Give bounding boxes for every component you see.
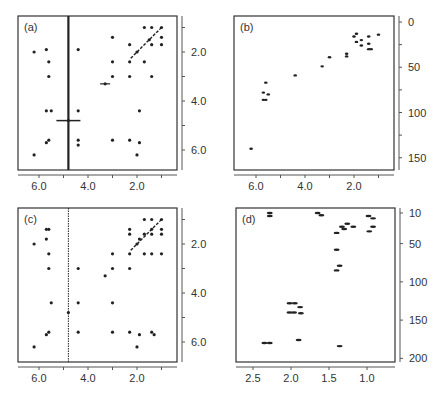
- cross-peak: [150, 252, 153, 255]
- cross-peak: [334, 269, 340, 271]
- x-tick-label: 6.0: [31, 372, 46, 384]
- x-tick-label: 4.0: [80, 180, 95, 192]
- cross-peak: [111, 252, 114, 255]
- cross-peak: [47, 267, 50, 270]
- cross-peak: [370, 217, 376, 219]
- cross-peak: [135, 153, 138, 156]
- y-tick-label: 50: [408, 61, 420, 73]
- cross-peak: [360, 44, 364, 46]
- cross-peak: [150, 331, 153, 334]
- cross-peak: [111, 301, 114, 304]
- cross-peak: [77, 109, 80, 112]
- cross-peak: [315, 212, 321, 214]
- y-tick-label: 2.0: [191, 46, 206, 58]
- cross-peak: [352, 35, 356, 37]
- cross-peak: [111, 331, 114, 334]
- cross-peak: [367, 43, 371, 45]
- cross-peak: [111, 139, 114, 142]
- cross-peak: [318, 214, 324, 216]
- panel-b-frame: [234, 16, 394, 170]
- cross-peak: [320, 65, 324, 67]
- panel-a: (a) 6.04.02.02.04.06.0: [18, 16, 206, 192]
- cross-peak: [47, 252, 50, 255]
- cross-peak: [77, 139, 80, 142]
- x-tick-label: 2.5: [245, 372, 260, 384]
- cross-peak: [47, 228, 50, 231]
- cross-peak: [267, 342, 273, 344]
- cross-peak: [47, 60, 50, 63]
- panel-d: (d) 2.52.01.51.01050100150200: [236, 207, 427, 384]
- cross-peak: [291, 311, 297, 313]
- cross-peak: [138, 141, 141, 144]
- cross-peak: [128, 60, 131, 63]
- y-tick-label: 4.0: [191, 287, 206, 299]
- x-tick-label: 4.0: [80, 372, 95, 384]
- cross-peak: [104, 274, 107, 277]
- x-tick-label: 2.0: [283, 372, 298, 384]
- y-tick-label: 200: [409, 352, 427, 364]
- panel-a-frame: [18, 16, 177, 170]
- cross-peak: [135, 345, 138, 348]
- cross-peak: [355, 41, 359, 43]
- cross-peak: [297, 306, 303, 308]
- cross-peak: [45, 48, 48, 51]
- cross-peak: [50, 109, 53, 112]
- cross-peak: [67, 311, 70, 314]
- cross-peak: [345, 52, 349, 54]
- cross-peak: [138, 333, 141, 336]
- y-tick-label: 50: [409, 238, 421, 250]
- cross-peak: [143, 252, 146, 255]
- x-tick-label: 2.0: [346, 180, 361, 192]
- cross-peak: [366, 215, 372, 217]
- y-tick-label: 4.0: [191, 95, 206, 107]
- cross-peak: [262, 91, 266, 93]
- cross-peak: [339, 226, 345, 228]
- cross-peak: [77, 48, 80, 51]
- cross-peak: [150, 26, 153, 29]
- cross-peak: [47, 139, 50, 142]
- panel-b: (b) 6.04.02.0050100150: [234, 16, 426, 192]
- cross-peak: [47, 331, 50, 334]
- panel-d-label: (d): [242, 213, 255, 225]
- y-tick-label: 6.0: [191, 336, 206, 348]
- panel-a-label: (a): [24, 21, 37, 33]
- y-tick-label: 150: [409, 314, 427, 326]
- y-tick-label: 6.0: [191, 144, 206, 156]
- panel-c: (c) 6.04.02.02.04.06.0: [18, 208, 206, 384]
- cross-peak: [128, 331, 131, 334]
- cross-peak: [143, 60, 146, 63]
- cross-peak: [160, 43, 163, 46]
- cross-peak: [138, 109, 141, 112]
- cross-peak: [286, 302, 292, 304]
- cross-peak: [298, 312, 304, 314]
- cross-peak: [33, 153, 36, 156]
- cross-peak: [355, 33, 359, 35]
- cross-peak: [128, 252, 131, 255]
- cross-peak: [128, 139, 131, 142]
- panel-c-label: (c): [24, 213, 37, 225]
- x-tick-label: 6.0: [248, 180, 263, 192]
- cross-peak: [150, 75, 153, 78]
- cross-peak: [33, 345, 36, 348]
- x-tick-label: 1.5: [321, 372, 336, 384]
- cross-peak: [264, 81, 268, 83]
- cross-peak: [47, 75, 50, 78]
- cross-peak: [45, 141, 48, 144]
- y-tick-label: 150: [408, 152, 426, 164]
- cross-peak: [267, 212, 273, 214]
- cross-peak: [328, 56, 332, 58]
- cross-peak: [377, 33, 381, 35]
- cross-peak: [50, 301, 53, 304]
- cross-peak: [370, 226, 376, 228]
- cross-peak: [337, 345, 343, 347]
- cross-peak: [360, 39, 364, 41]
- cross-peak: [45, 109, 48, 112]
- cross-peak: [45, 238, 48, 241]
- cross-peak: [249, 148, 253, 150]
- cross-peak: [160, 252, 163, 255]
- cross-peak: [261, 342, 267, 344]
- cross-peak: [334, 232, 340, 234]
- cross-peak: [350, 226, 356, 228]
- panel-b-label: (b): [240, 21, 253, 33]
- cross-peak: [296, 339, 302, 341]
